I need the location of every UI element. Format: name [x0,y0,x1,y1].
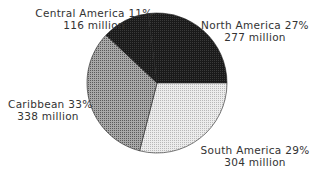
label-caribbean: Caribbean 33% 338 million [8,98,88,122]
label-south-america-percent: South America 29% [200,144,310,156]
label-caribbean-value: 338 million [8,110,88,122]
label-south-america: South America 29% 304 million [200,144,310,168]
label-central-america-percent: Central America 11% [34,7,154,19]
label-north-america: North America 27% 277 million [200,19,310,43]
label-central-america: Central America 11% 116 million [34,7,154,31]
label-north-america-percent: North America 27% [200,19,310,31]
label-south-america-value: 304 million [200,156,310,168]
label-caribbean-percent: Caribbean 33% [8,98,88,110]
label-central-america-value: 116 million [34,19,154,31]
label-north-america-value: 277 million [200,31,310,43]
